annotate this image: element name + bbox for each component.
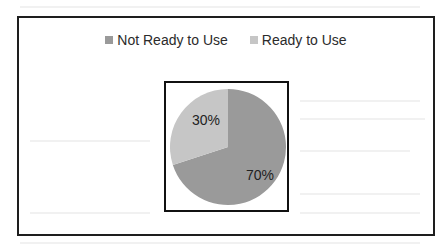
plot-area: 30% 70% bbox=[164, 81, 289, 212]
chart-legend: Not Ready to Use Ready to Use bbox=[19, 32, 433, 48]
legend-label-not-ready: Not Ready to Use bbox=[117, 32, 228, 48]
legend-label-ready: Ready to Use bbox=[262, 32, 347, 48]
slice-label-ready: 30% bbox=[192, 112, 220, 128]
chart-area: Not Ready to Use Ready to Use 30% 70% bbox=[17, 16, 435, 236]
legend-swatch-ready bbox=[250, 36, 258, 44]
pie-chart bbox=[166, 83, 287, 210]
slice-label-not-ready: 70% bbox=[246, 167, 274, 183]
legend-swatch-not-ready bbox=[105, 36, 113, 44]
legend-item-not-ready: Not Ready to Use bbox=[105, 32, 228, 48]
legend-item-ready: Ready to Use bbox=[250, 32, 347, 48]
